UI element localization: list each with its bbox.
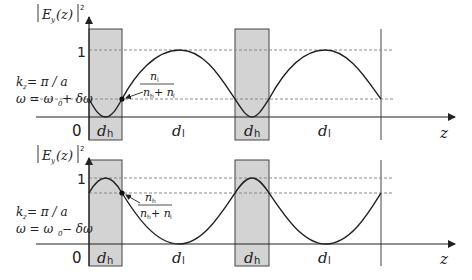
svg-text:l: l [173, 92, 175, 99]
svg-text:l: l [328, 255, 331, 266]
svg-text:h: h [254, 255, 260, 266]
svg-text:ω = ω: ω = ω [16, 222, 53, 236]
upper-panel: E y (z) 2 1 0 z k z = π / a ω = ω 0 + δω… [16, 4, 455, 142]
svg-text:h: h [107, 128, 113, 139]
svg-text:l: l [182, 128, 185, 139]
boundary-point-dot [119, 190, 124, 195]
svg-text:+ n: + n [154, 86, 174, 99]
svg-text:l: l [170, 213, 172, 220]
y-axis-label: E y (z) 2 [38, 145, 84, 165]
boundary-point-dot [119, 96, 124, 101]
svg-text:(z): (z) [56, 7, 73, 22]
svg-text:d: d [172, 122, 182, 140]
layer-label-dl: d l [172, 249, 185, 267]
svg-text:ω = ω: ω = ω [16, 92, 53, 106]
frequency-condition: ω = ω 0 + δω [16, 92, 93, 108]
intensity-fraction-label: n h n h + n l [138, 191, 172, 220]
svg-text:d: d [244, 249, 254, 267]
svg-text:= π / a: = π / a [27, 205, 68, 219]
svg-text:d: d [172, 249, 182, 267]
wavevector-condition: k z = π / a [16, 75, 68, 91]
layer-label-dl: d l [172, 122, 185, 140]
svg-text:+ n: + n [151, 207, 171, 220]
layer-label-dl: d l [318, 122, 331, 140]
band-edge-diagram: E y (z) 2 1 0 z k z = π / a ω = ω 0 + δω… [0, 0, 472, 280]
wavevector-condition: k z = π / a [16, 205, 68, 221]
svg-text:h: h [107, 255, 113, 266]
svg-text:2: 2 [80, 4, 84, 12]
z-axis-label: z [439, 250, 448, 268]
origin-label: 0 [72, 122, 82, 140]
svg-text:d: d [318, 122, 328, 140]
layer-label-dl: d l [318, 249, 331, 267]
svg-text:l: l [328, 128, 331, 139]
frequency-condition: ω = ω 0 − δω [16, 222, 93, 238]
svg-text:h: h [152, 197, 156, 204]
svg-text:(z): (z) [56, 148, 73, 163]
intensity-fraction-label: n l n h + n l [140, 70, 175, 99]
y-tick-one: 1 [77, 171, 86, 187]
svg-text:d: d [244, 122, 254, 140]
fraction-pointer-arrow [126, 92, 143, 98]
lower-panel: E y (z) 2 1 0 z k z = π / a ω = ω 0 − δω… [16, 145, 455, 268]
svg-text:l: l [182, 255, 185, 266]
svg-text:h: h [254, 128, 260, 139]
y-tick-one: 1 [77, 44, 86, 60]
svg-text:− δω: − δω [62, 222, 93, 236]
svg-text:d: d [97, 249, 107, 267]
svg-text:d: d [97, 122, 107, 140]
svg-text:2: 2 [80, 145, 84, 153]
svg-text:+ δω: + δω [62, 92, 93, 106]
y-axis-label: E y (z) 2 [38, 4, 84, 24]
svg-text:d: d [318, 249, 328, 267]
origin-label: 0 [72, 249, 82, 267]
svg-text:= π / a: = π / a [27, 75, 68, 89]
z-axis-label: z [439, 124, 448, 142]
svg-text:l: l [157, 76, 159, 83]
